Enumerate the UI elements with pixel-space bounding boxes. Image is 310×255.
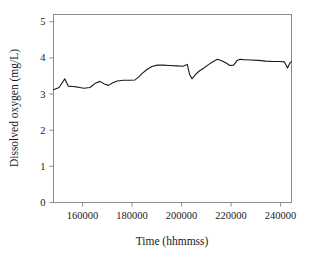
x-tick-label: 180000: [116, 210, 148, 221]
y-tick-label: 5: [40, 16, 45, 27]
x-tick-label: 220000: [215, 210, 247, 221]
y-tick-label: 1: [40, 161, 45, 172]
x-tick-label: 200000: [166, 210, 198, 221]
line-chart: 012345 160000180000200000220000240000 Ti…: [0, 0, 310, 255]
chart-figure: 012345 160000180000200000220000240000 Ti…: [0, 0, 310, 255]
y-axis-title: Dissolved oxygen (mg/L): [8, 49, 21, 167]
y-tick-label: 0: [40, 197, 45, 208]
x-tick-label: 240000: [265, 210, 297, 221]
y-tick-label: 2: [40, 125, 45, 136]
y-tick-label: 4: [40, 52, 46, 63]
chart-background: [0, 0, 310, 255]
x-axis-title: Time (hhmmss): [136, 235, 209, 248]
y-tick-label: 3: [40, 89, 45, 100]
x-tick-label: 160000: [67, 210, 99, 221]
